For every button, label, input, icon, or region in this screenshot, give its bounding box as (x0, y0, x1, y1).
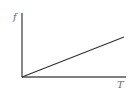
x-axis-label: T (117, 79, 125, 90)
y-axis-label: f (12, 11, 19, 22)
graph-f-vs-t: f T (0, 0, 136, 95)
linear-plot-line (22, 37, 124, 77)
